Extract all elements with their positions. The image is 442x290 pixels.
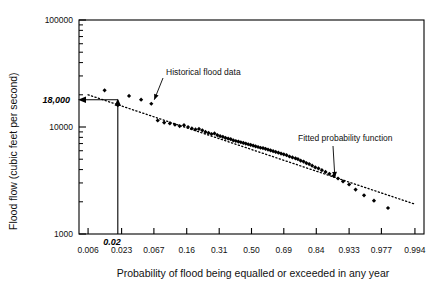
x-tick-label: 0.977 [371, 245, 393, 255]
annotation-fitted-probability-function: Fitted probability function [298, 133, 393, 143]
y-axis-highlight-label: 18,000 [42, 95, 70, 105]
flood-frequency-chart: 100010000100000 0.0060.0230.0670.160.310… [0, 0, 442, 290]
chart-canvas: 100010000100000 0.0060.0230.0670.160.310… [0, 0, 442, 290]
x-tick-label: 0.50 [243, 245, 260, 255]
annotation-historical-flood-data: Historical flood data [166, 67, 241, 77]
y-tick-label: 10000 [49, 122, 73, 132]
x-axis-highlight-label: 0.02 [103, 237, 121, 247]
x-axis-title: Probability of flood being equalled or e… [117, 267, 390, 279]
x-tick-label: 0.067 [143, 245, 165, 255]
x-tick-label: 0.994 [404, 245, 426, 255]
x-tick-label: 0.69 [276, 245, 293, 255]
x-tick-label: 0.006 [77, 245, 99, 255]
y-axis-title: Flood flow (cubic feet per second) [7, 72, 19, 230]
x-tick-label: 0.84 [308, 245, 325, 255]
x-tick-label: 0.16 [178, 245, 195, 255]
y-tick-label: 100000 [45, 15, 74, 25]
x-axis-tick-labels: 0.0060.0230.0670.160.310.500.690.840.933… [77, 245, 425, 255]
x-tick-label: 0.933 [338, 245, 360, 255]
y-tick-label: 1000 [54, 229, 73, 239]
x-tick-label: 0.31 [211, 245, 228, 255]
